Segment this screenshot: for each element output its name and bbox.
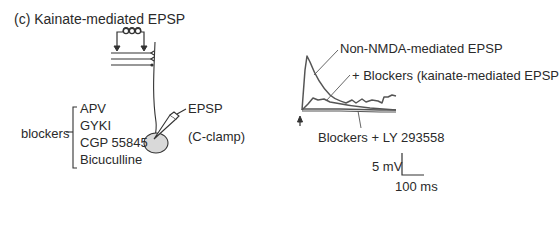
blocker-item: CGP 55845 — [80, 136, 148, 149]
stimulus-arrow-icons — [114, 46, 147, 51]
recording-electrode-icon — [154, 109, 186, 139]
scale-bar — [402, 153, 424, 175]
epsp-traces — [302, 56, 396, 112]
scale-bar-time: 100 ms — [395, 180, 438, 193]
clamp-label: (C-clamp) — [188, 130, 245, 143]
scale-bar-voltage: 5 mV — [372, 160, 402, 173]
epsp-recording-label: EPSP — [188, 102, 223, 115]
blockers-label: blockers — [21, 127, 69, 140]
blocker-item: GYKI — [80, 119, 111, 132]
trace-non-nmda — [302, 56, 396, 110]
label-leaders — [314, 50, 361, 128]
stimulus-marker-icon — [298, 116, 303, 126]
synapse-dot-icon — [150, 63, 153, 66]
dendrite — [154, 42, 157, 142]
trace-label-kainate: + Blockers (kainate-mediated EPSP — [352, 69, 559, 82]
blocker-item: APV — [80, 102, 106, 115]
afferent-fibers — [111, 51, 154, 65]
trace-label-non-nmda: Non-NMDA-mediated EPSP — [340, 42, 503, 55]
blocker-item: Bicuculline — [80, 153, 142, 166]
trace-kainate — [302, 98, 396, 110]
stimulation-coil-icon — [117, 28, 144, 47]
trace-label-ly: Blockers + LY 293558 — [318, 131, 444, 144]
